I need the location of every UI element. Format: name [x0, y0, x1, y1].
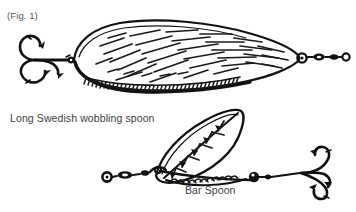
figure-number-label: (Fig. 1) [7, 10, 38, 21]
bead-icon [249, 172, 259, 182]
figure-illustration: (Fig. 1) Long Swedish wobbling spoon Bar… [0, 0, 356, 212]
lure-long-swedish-wobbling-spoon [20, 20, 350, 92]
swivel-icon [307, 53, 350, 60]
lure-label-long-swedish-wobbling-spoon: Long Swedish wobbling spoon [10, 112, 155, 124]
split-ring-front [102, 172, 111, 181]
lure-illustration-svg [0, 0, 356, 212]
swivel-icon-bar [112, 170, 149, 179]
lure-label-bar-spoon: Bar Spoon [185, 184, 236, 196]
treble-hook-icon [20, 36, 68, 83]
treble-hook-icon-bar [301, 147, 332, 199]
